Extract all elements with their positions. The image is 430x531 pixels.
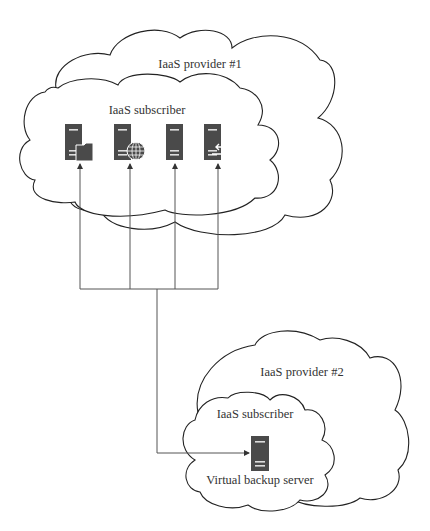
diagram-svg [0, 0, 430, 531]
folder-icon [76, 143, 93, 161]
backup-server-label: Virtual backup server [206, 473, 314, 488]
subscriber2-label: IaaS subscriber [217, 407, 294, 422]
backup-server-icon [251, 436, 269, 471]
subscriber1-cloud [20, 74, 279, 217]
provider1-label: IaaS provider #1 [158, 57, 241, 72]
diagram-canvas: IaaS provider #1 IaaS subscriber IaaS pr… [0, 0, 430, 531]
globe-icon [127, 142, 145, 160]
provider2-label: IaaS provider #2 [260, 365, 343, 380]
subscriber1-label: IaaS subscriber [109, 103, 186, 118]
plain-server-icon [166, 124, 183, 160]
